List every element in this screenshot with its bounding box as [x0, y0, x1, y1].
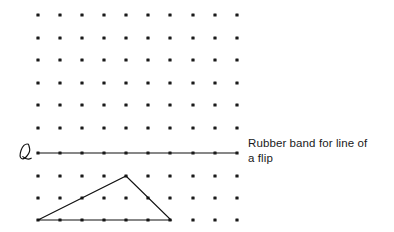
- geoboard-peg: [213, 196, 216, 199]
- geoboard-peg: [58, 36, 61, 39]
- geoboard-peg: [168, 81, 171, 84]
- geoboard-canvas: [0, 0, 394, 232]
- geoboard-peg: [191, 103, 194, 106]
- geoboard-peg: [36, 58, 39, 61]
- geoboard-peg: [168, 58, 171, 61]
- geoboard-peg: [58, 126, 61, 129]
- geoboard-peg: [36, 196, 39, 199]
- geoboard-peg: [124, 126, 127, 129]
- geoboard-peg: [146, 151, 149, 154]
- figure-caption: Rubber band for line of a flip: [248, 136, 394, 165]
- geoboard-peg: [80, 103, 83, 106]
- geoboard-peg: [168, 103, 171, 106]
- geoboard-peg: [213, 174, 216, 177]
- geoboard-peg: [80, 126, 83, 129]
- geoboard-peg: [146, 126, 149, 129]
- geoboard-peg: [235, 58, 238, 61]
- geoboard-peg: [80, 58, 83, 61]
- geoboard-peg: [191, 58, 194, 61]
- geoboard-peg: [36, 126, 39, 129]
- geoboard-peg: [235, 13, 238, 16]
- geoboard-peg: [58, 103, 61, 106]
- geoboard-peg: [124, 13, 127, 16]
- geoboard-peg: [102, 126, 105, 129]
- geoboard-peg: [191, 174, 194, 177]
- geoboard-peg: [102, 13, 105, 16]
- caption-line-2: a flip: [248, 151, 394, 166]
- geoboard-peg: [58, 81, 61, 84]
- geoboard-peg: [235, 36, 238, 39]
- geoboard-peg: [213, 13, 216, 16]
- geoboard-peg: [191, 196, 194, 199]
- geoboard-peg: [146, 103, 149, 106]
- geoboard-peg: [80, 81, 83, 84]
- geoboard-peg: [213, 126, 216, 129]
- geoboard-peg: [80, 174, 83, 177]
- geoboard-peg: [235, 151, 238, 154]
- geoboard-peg: [102, 58, 105, 61]
- geoboard-peg: [36, 36, 39, 39]
- geoboard-peg: [213, 151, 216, 154]
- geoboard-peg: [124, 58, 127, 61]
- caption-line-1: Rubber band for line of: [248, 136, 394, 151]
- geoboard-peg: [124, 151, 127, 154]
- geoboard-peg: [102, 81, 105, 84]
- geoboard-peg: [191, 13, 194, 16]
- geoboard-peg: [102, 151, 105, 154]
- geoboard-peg: [36, 151, 39, 154]
- geoboard-peg: [168, 13, 171, 16]
- geoboard-peg: [102, 36, 105, 39]
- geoboard-peg: [102, 196, 105, 199]
- geoboard-peg: [36, 174, 39, 177]
- geoboard-peg: [36, 13, 39, 16]
- geoboard-peg: [58, 151, 61, 154]
- geoboard-peg: [191, 151, 194, 154]
- geoboard-peg: [213, 58, 216, 61]
- geoboard-peg: [124, 103, 127, 106]
- geoboard-peg: [213, 81, 216, 84]
- geoboard-peg: [58, 174, 61, 177]
- geoboard-peg: [191, 126, 194, 129]
- geoboard-peg: [213, 103, 216, 106]
- geoboard-peg: [146, 36, 149, 39]
- geoboard-peg: [80, 13, 83, 16]
- geoboard-peg: [191, 36, 194, 39]
- geoboard-peg: [80, 151, 83, 154]
- geoboard-peg: [80, 36, 83, 39]
- geoboard-peg: [168, 196, 171, 199]
- geoboard-peg: [146, 13, 149, 16]
- geoboard-peg: [235, 196, 238, 199]
- geoboard-peg: [168, 151, 171, 154]
- geoboard-peg: [124, 81, 127, 84]
- geoboard-peg: [124, 196, 127, 199]
- geoboard-peg: [124, 36, 127, 39]
- geoboard-peg: [191, 218, 194, 221]
- geoboard-peg: [191, 81, 194, 84]
- geoboard-figure: Rubber band for line of a flip: [0, 0, 394, 232]
- geoboard-peg: [168, 126, 171, 129]
- geoboard-peg: [235, 103, 238, 106]
- geoboard-peg: [235, 81, 238, 84]
- geoboard-peg: [168, 174, 171, 177]
- geoboard-peg: [146, 81, 149, 84]
- geoboard-peg: [235, 218, 238, 221]
- geoboard-peg: [213, 36, 216, 39]
- geoboard-peg: [213, 218, 216, 221]
- geoboard-peg: [36, 81, 39, 84]
- geoboard-peg: [58, 13, 61, 16]
- geoboard-peg: [168, 36, 171, 39]
- geoboard-peg: [235, 126, 238, 129]
- geoboard-peg: [146, 58, 149, 61]
- geoboard-peg: [102, 103, 105, 106]
- geoboard-peg: [58, 196, 61, 199]
- geoboard-peg: [102, 174, 105, 177]
- geoboard-peg: [58, 58, 61, 61]
- geoboard-peg: [235, 174, 238, 177]
- geoboard-peg: [36, 103, 39, 106]
- geoboard-peg: [146, 174, 149, 177]
